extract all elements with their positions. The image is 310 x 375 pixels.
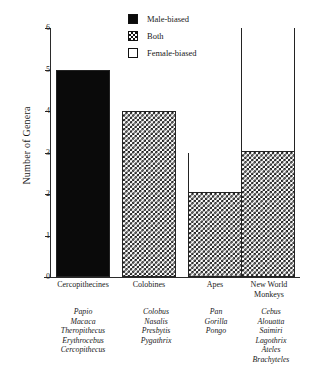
x-category-label-line1: New World [236,280,302,290]
genus-item: Ateles [235,345,307,355]
genus-item: Alouatta [235,317,307,327]
x-category-label-line2: Monkeys [236,290,302,300]
bar-segment-female-biased [242,27,294,152]
genus-item: Pygathrix [118,336,194,346]
y-axis-title: Number of Genera [21,56,32,236]
x-axis-line [44,277,300,278]
legend-swatch-male-biased-icon [128,14,138,24]
genus-item: Brachyteles [235,355,307,365]
x-category-label-new-world-monkeys: New World Monkeys [236,280,302,299]
bar-segment-both [123,112,175,276]
genus-item: Lagothrix [235,336,307,346]
bar-cercopithecines [56,70,110,278]
genus-item: Cercopithecus [33,345,133,355]
bar-segment-female-biased [189,152,241,194]
bar-segment-both [189,193,241,276]
bar-apes [188,153,242,278]
y-tick-label-6: 6 [36,24,50,32]
legend-label-both: Both [147,31,164,41]
legend-swatch-female-biased-icon [128,48,138,58]
legend-label-female-biased: Female-biased [147,48,197,58]
y-tick-label-2: 2 [36,190,50,198]
y-tick-label-3: 3 [36,149,50,157]
legend-label-male-biased: Male-biased [147,14,189,24]
chart-legend: Male-biased Both Female-biased [128,11,248,62]
genus-item: Cebus [235,307,307,317]
y-tick-label-1: 1 [36,232,50,240]
genus-list-new-world-monkeys: Cebus Alouatta Saimiri Lagothrix Ateles … [235,307,307,365]
bar-segment-both [242,152,294,277]
x-category-label-colobines: Colobines [112,280,186,290]
bar-segment-divider [189,192,241,193]
legend-item-female-biased: Female-biased [128,45,248,60]
bar-segment-divider [242,151,294,152]
y-tick-label-4: 4 [36,107,50,115]
x-category-label-line1: Colobines [112,280,186,290]
legend-item-male-biased: Male-biased [128,11,248,26]
y-axis-line [50,28,51,277]
bar-colobines [122,111,176,277]
bar-segment-male-biased [57,71,109,277]
genus-item: Saimiri [235,326,307,336]
bar-chart: Male-biased Both Female-biased Number of… [0,0,310,375]
y-tick-label-5: 5 [36,66,50,74]
legend-swatch-both-icon [128,31,138,41]
bar-new-world-monkeys [241,28,295,277]
legend-item-both: Both [128,28,248,43]
